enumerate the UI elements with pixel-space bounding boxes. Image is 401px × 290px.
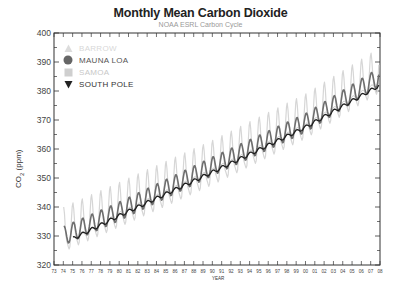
y-tick-label: 370 [37, 115, 51, 125]
x-tick-label: 87 [182, 269, 188, 274]
x-tick-label: 03 [331, 269, 337, 274]
x-tick-label: 00 [303, 269, 309, 274]
legend-item-south-pole: SOUTH POLE [62, 78, 134, 90]
x-tick-label: 08 [377, 269, 383, 274]
x-tick-label: 90 [210, 269, 216, 274]
x-tick-label: 78 [98, 269, 104, 274]
square-icon [62, 68, 74, 77]
circle-icon [62, 55, 74, 65]
legend-item-mauna-loa: MAUNA LOA [62, 54, 134, 66]
triangle-down-icon [62, 80, 74, 89]
y-tick-label: 360 [37, 144, 51, 154]
x-tick-label: 06 [359, 269, 365, 274]
x-tick-label: 77 [89, 269, 95, 274]
x-tick-label: 74 [61, 269, 67, 274]
x-tick-label: 94 [247, 269, 253, 274]
y-tick-label: 380 [37, 86, 51, 96]
x-tick-label: 84 [154, 269, 160, 274]
x-tick-label: 85 [163, 269, 169, 274]
x-tick-label: 82 [135, 269, 141, 274]
x-tick-label: 86 [173, 269, 179, 274]
x-tick-label: 73 [51, 269, 57, 274]
x-tick-label: 99 [294, 269, 300, 274]
y-tick-label: 340 [37, 202, 51, 212]
x-tick-label: 83 [145, 269, 151, 274]
legend-item-samoa: SAMOA [62, 66, 134, 78]
plot-area: 3203303403503603703803904007374757677787… [0, 0, 401, 290]
legend-label: MAUNA LOA [79, 56, 128, 65]
x-tick-label: 97 [275, 269, 281, 274]
legend: BARROW MAUNA LOA SAMOA SOUTH POLE [62, 42, 134, 90]
legend-label: BARROW [79, 44, 117, 53]
y-tick-label: 350 [37, 173, 51, 183]
legend-label: SOUTH POLE [79, 80, 134, 89]
legend-item-barrow: BARROW [62, 42, 134, 54]
x-tick-label: 89 [200, 269, 206, 274]
x-tick-label: 92 [228, 269, 234, 274]
x-tick-label: 91 [219, 269, 225, 274]
y-tick-label: 390 [37, 57, 51, 67]
x-tick-label: 95 [256, 269, 262, 274]
x-tick-label: 98 [284, 269, 290, 274]
x-tick-label: 79 [107, 269, 113, 274]
y-tick-label: 400 [37, 28, 51, 38]
x-tick-label: 81 [126, 269, 132, 274]
x-axis-label: YEAR [212, 276, 224, 281]
x-tick-label: 75 [70, 269, 76, 274]
x-tick-label: 76 [79, 269, 85, 274]
x-tick-label: 05 [349, 269, 355, 274]
x-tick-label: 88 [191, 269, 197, 274]
triangle-up-icon [62, 44, 74, 53]
y-tick-label: 320 [37, 260, 51, 270]
x-tick-label: 93 [238, 269, 244, 274]
y-tick-label: 330 [37, 231, 51, 241]
x-tick-label: 01 [312, 269, 318, 274]
x-tick-label: 07 [368, 269, 374, 274]
x-tick-label: 96 [266, 269, 272, 274]
x-tick-label: 80 [117, 269, 123, 274]
x-tick-label: 04 [340, 269, 346, 274]
legend-label: SAMOA [79, 68, 109, 77]
y-axis-label: CO2 (ppm) [14, 150, 25, 188]
x-tick-label: 02 [322, 269, 328, 274]
